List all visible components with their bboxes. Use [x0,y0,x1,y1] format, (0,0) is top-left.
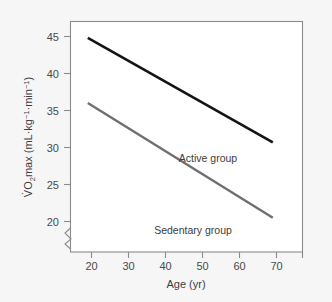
x-axis-title: Age (yr) [166,278,205,290]
x-tick-label-60: 60 [233,260,245,272]
vo2max-line-chart: 45 40 35 30 25 20 20 30 40 50 60 70 Age … [0,0,332,302]
y-tick-label-30: 30 [47,142,59,154]
x-tick-label-30: 30 [122,260,134,272]
x-tick-label-70: 70 [270,260,282,272]
y-axis-title-sup1: −1 [22,110,31,119]
x-tick-label-40: 40 [159,260,171,272]
y-tick-label-35: 35 [47,105,59,117]
series-annotation-active-group: Active group [179,152,238,164]
y-axis-title-tail: ) [22,77,34,81]
chart-figure: 45 40 35 30 25 20 20 30 40 50 60 70 Age … [0,0,332,302]
plot-frame [71,22,303,253]
y-axis-title-max: max (mL·kg [22,119,34,177]
y-tick-label-45: 45 [47,31,59,43]
series-annotation-sedentary-group: Sedentary group [154,224,232,236]
y-tick-label-20: 20 [47,216,59,228]
x-tick-label-50: 50 [196,260,208,272]
y-axis-title-sup2: −1 [22,80,31,89]
y-tick-label-25: 25 [47,179,59,191]
y-axis-title-mid: ·min [22,89,34,110]
x-tick-label-20: 20 [85,260,97,272]
y-tick-label-40: 40 [47,68,59,80]
